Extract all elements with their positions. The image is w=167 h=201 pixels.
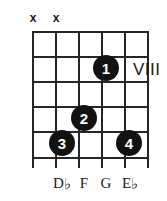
flat-icon: ♭ bbox=[64, 176, 71, 192]
string-line-3 bbox=[78, 31, 80, 168]
fret-line-5 bbox=[32, 157, 149, 159]
fret-line-1 bbox=[32, 56, 149, 58]
string-line-4 bbox=[101, 31, 103, 168]
note-letter: D bbox=[53, 175, 64, 191]
fret-line-nut bbox=[32, 31, 149, 33]
mute-marker-string-2: x bbox=[50, 12, 62, 24]
finger-dot-3: 3 bbox=[49, 130, 75, 156]
note-label-string-4: F bbox=[80, 176, 88, 192]
finger-dot-1: 1 bbox=[93, 55, 119, 81]
string-line-1 bbox=[32, 31, 34, 168]
note-letter: G bbox=[101, 175, 112, 191]
note-label-string-5: G bbox=[101, 176, 112, 192]
finger-dot-4: 4 bbox=[116, 130, 142, 156]
note-label-string-3: D♭ bbox=[53, 176, 71, 192]
finger-dot-2: 2 bbox=[71, 105, 97, 131]
note-label-string-6: E♭ bbox=[122, 176, 138, 192]
flat-icon: ♭ bbox=[131, 176, 138, 192]
fret-line-2 bbox=[32, 81, 149, 83]
string-line-6 bbox=[147, 31, 149, 168]
guitar-chord-diagram: x x 1 2 3 4 VIII D♭ F G E♭ bbox=[0, 0, 167, 201]
mute-marker-string-1: x bbox=[27, 12, 39, 24]
note-letter: E bbox=[122, 175, 131, 191]
fret-position-marker: VIII bbox=[133, 61, 161, 78]
note-letter: F bbox=[80, 175, 88, 191]
